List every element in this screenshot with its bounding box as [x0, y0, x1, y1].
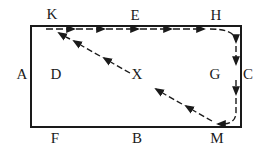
label-a: A: [17, 67, 28, 82]
label-k: K: [47, 7, 58, 22]
label-d: D: [51, 67, 62, 82]
label-m: M: [210, 131, 223, 146]
label-g: G: [210, 67, 221, 82]
label-h: H: [211, 8, 222, 23]
label-f: F: [51, 131, 59, 146]
label-e: E: [130, 8, 139, 23]
route-right-arrows: [218, 46, 236, 124]
label-c: C: [243, 67, 253, 82]
label-b: B: [132, 131, 142, 146]
diagram: K E H A D X G C F B M: [0, 0, 264, 150]
route-top-arrows: [46, 29, 236, 42]
label-x: X: [132, 67, 143, 82]
